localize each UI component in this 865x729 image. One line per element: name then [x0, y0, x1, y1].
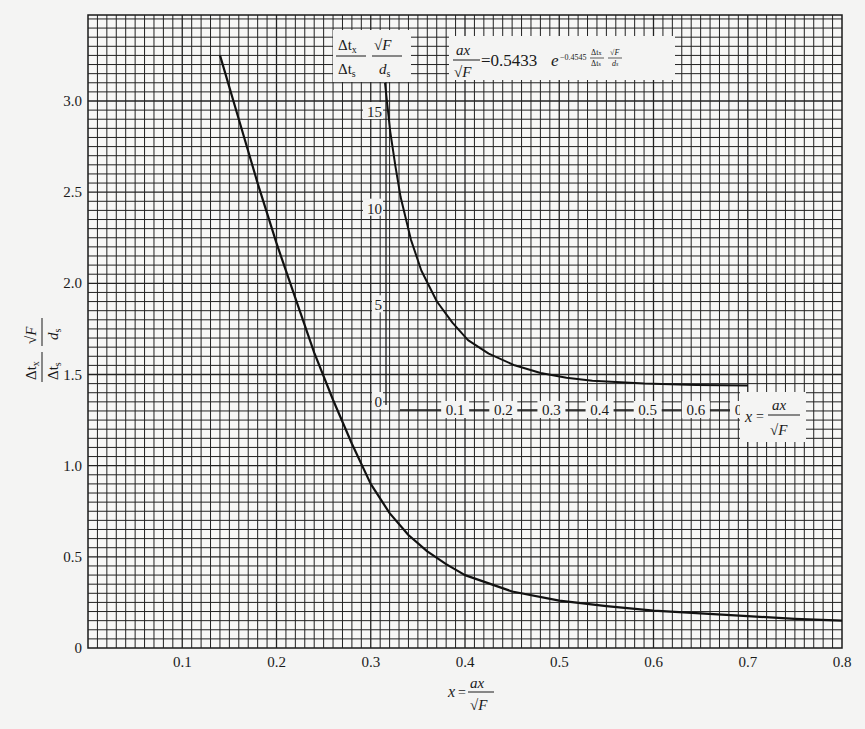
x-tick-label: 0.3: [361, 654, 380, 670]
x-tick-label: 0.5: [550, 654, 569, 670]
svg-text:Δtx: Δtx: [23, 361, 41, 380]
inset-x-tick-label: 0.4: [590, 402, 609, 418]
svg-text:√F: √F: [770, 422, 788, 438]
svg-text:√F: √F: [454, 64, 472, 80]
inset-y-tick-label: 10: [367, 201, 382, 217]
inset-y-tick-label: 15: [367, 104, 382, 120]
inset-x-tick-label: 0.1: [446, 402, 465, 418]
svg-text:x: x: [447, 683, 455, 700]
svg-text:ax: ax: [456, 42, 471, 58]
inset-x-tick-label: 0.5: [638, 402, 657, 418]
x-tick-label: 0.4: [456, 654, 475, 670]
svg-text:Δts: Δts: [591, 59, 601, 68]
svg-text:=: =: [756, 409, 764, 424]
y-tick-label: 2.0: [63, 275, 82, 291]
y-tick-label: 1.5: [63, 367, 82, 383]
inset-x-tick-label: 0.3: [542, 402, 561, 418]
inset-x-label: x = ax √F: [740, 392, 806, 442]
svg-text:√F: √F: [470, 697, 488, 713]
svg-text:√F: √F: [610, 48, 619, 57]
inset-formula: ax √F =0.5433 e −0.4545 Δtx Δts √F ds: [449, 36, 675, 80]
inset-x-tick-label: 0.6: [686, 402, 705, 418]
svg-text:=: =: [458, 685, 466, 700]
inset-y-label: Δtx Δts √F ds: [333, 30, 411, 82]
chart-root: 0.10.20.30.40.50.60.70.800.51.01.52.02.5…: [0, 0, 865, 729]
x-tick-label: 0.2: [267, 654, 286, 670]
svg-text:−0.4545: −0.4545: [560, 53, 587, 62]
y-tick-label: 0.5: [63, 549, 82, 565]
main-grid: [88, 15, 842, 648]
y-axis-label: Δtx Δts √F ds: [23, 318, 63, 382]
inset-y-tick-label: 0: [375, 394, 383, 410]
svg-text:Δts: Δts: [45, 362, 63, 380]
svg-text:ds: ds: [45, 329, 63, 341]
svg-text:e: e: [551, 51, 559, 70]
svg-text:=0.5433: =0.5433: [481, 51, 537, 70]
y-tick-label: 3.0: [63, 93, 82, 109]
svg-text:ax: ax: [470, 675, 485, 691]
y-tick-label: 0: [75, 640, 83, 656]
svg-text:Δtx: Δtx: [591, 48, 601, 57]
x-axis-label: x = ax √F: [447, 675, 494, 713]
x-tick-label: 0.1: [173, 654, 192, 670]
x-tick-label: 0.6: [644, 654, 663, 670]
inset-y-tick-label: 5: [375, 297, 383, 313]
svg-text:ax: ax: [772, 397, 787, 413]
svg-text:√F: √F: [374, 37, 392, 53]
svg-text:x: x: [744, 408, 752, 425]
x-tick-label: 0.7: [738, 654, 757, 670]
chart-svg: 0.10.20.30.40.50.60.70.800.51.01.52.02.5…: [0, 0, 865, 729]
inset-x-tick-label: 0.2: [494, 402, 513, 418]
x-tick-label: 0.8: [833, 654, 852, 670]
y-tick-label: 2.5: [63, 184, 82, 200]
svg-text:√F: √F: [23, 326, 39, 344]
y-tick-label: 1.0: [63, 458, 82, 474]
svg-text:ds: ds: [612, 59, 619, 68]
